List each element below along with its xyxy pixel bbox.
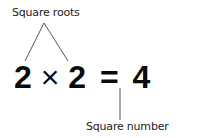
left-root-connector xyxy=(25,23,44,61)
equation: 2 × 2 = 4 xyxy=(14,59,150,96)
equals-sign: = xyxy=(100,59,118,96)
multiply-operator: × xyxy=(41,59,59,96)
right-root-connector xyxy=(44,23,68,61)
right-operand: 2 xyxy=(68,59,85,96)
left-operand: 2 xyxy=(14,59,31,96)
result: 4 xyxy=(133,59,150,96)
square-number-label: Square number xyxy=(86,120,169,133)
